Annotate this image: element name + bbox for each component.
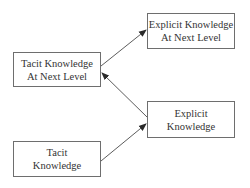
node-label-line: At Next Level	[161, 31, 221, 44]
node-label-line: Tacit Knowledge	[21, 57, 93, 70]
knowledge-spiral-diagram: Tacit Knowledge At Next Level Explicit K…	[0, 0, 250, 188]
node-tacit-knowledge: Tacit Knowledge	[13, 141, 101, 177]
node-label-line: Explicit	[174, 107, 207, 120]
node-label-line: Knowledge	[167, 120, 215, 133]
node-label-line: At Next Level	[27, 70, 87, 83]
arrow-explicit-to-tacit-next	[102, 73, 147, 117]
node-label-line: Knowledge	[33, 159, 81, 172]
node-label-line: Explicit Knowledge	[149, 18, 233, 31]
node-label-line: Tacit	[47, 146, 68, 159]
node-tacit-knowledge-next-level: Tacit Knowledge At Next Level	[13, 52, 101, 87]
arrow-tacit-next-to-explicit-next	[101, 30, 146, 66]
node-explicit-knowledge: Explicit Knowledge	[147, 101, 235, 138]
arrow-tacit-to-explicit	[101, 124, 146, 161]
node-explicit-knowledge-next-level: Explicit Knowledge At Next Level	[147, 13, 235, 49]
